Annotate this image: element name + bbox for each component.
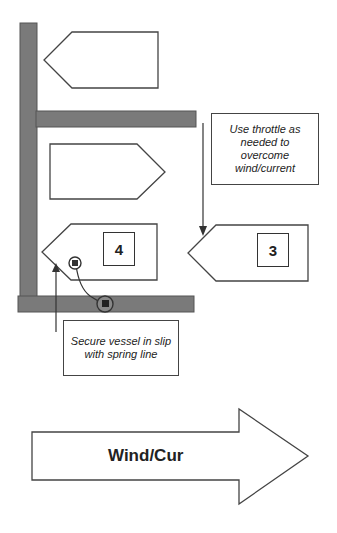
throttle-note: Use throttle as needed to overcome wind/… (211, 113, 319, 185)
middle-boat (50, 144, 165, 199)
spring-line-note: Secure vessel in slip with spring line (63, 320, 179, 376)
upper-finger-pier (36, 111, 196, 127)
boat-3-number: 3 (257, 233, 289, 267)
cleat-dock-core (102, 300, 109, 307)
cleat-boat-core (72, 260, 78, 266)
top-boat (44, 32, 158, 88)
boat-4-number: 4 (103, 232, 135, 266)
vertical-dock (20, 23, 37, 308)
wind-current-label: Wind/Cur (108, 446, 183, 466)
boat-3 (188, 225, 308, 281)
